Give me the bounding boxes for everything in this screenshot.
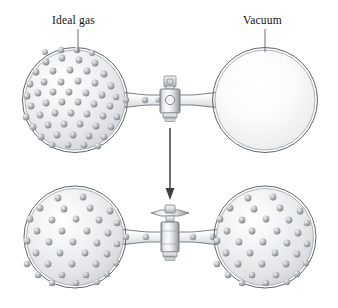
gas-expansion-figure: Ideal gas Vacuum bbox=[0, 0, 338, 308]
diagram-svg bbox=[0, 0, 338, 308]
bulb-left-expanded-gas bbox=[24, 186, 126, 288]
process-direction-arrow bbox=[166, 128, 175, 200]
stopcock-valve-closed[interactable] bbox=[160, 76, 180, 122]
panel-after-expansion bbox=[24, 186, 316, 288]
bulb-right-expanded-gas bbox=[214, 186, 316, 288]
bulb-left-ideal-gas bbox=[23, 47, 128, 153]
bulb-right-vacuum bbox=[213, 48, 318, 153]
label-leader-lines bbox=[78, 29, 265, 52]
label-vacuum: Vacuum bbox=[243, 14, 282, 26]
label-ideal-gas: Ideal gas bbox=[52, 14, 95, 26]
